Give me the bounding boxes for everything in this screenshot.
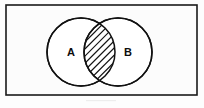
venn-diagram-figure: A B xyxy=(0,0,204,108)
set-label-a: A xyxy=(67,46,75,58)
scan-artifact xyxy=(86,100,116,101)
venn-diagram-canvas: A B xyxy=(0,0,204,108)
set-label-b: B xyxy=(124,46,132,58)
